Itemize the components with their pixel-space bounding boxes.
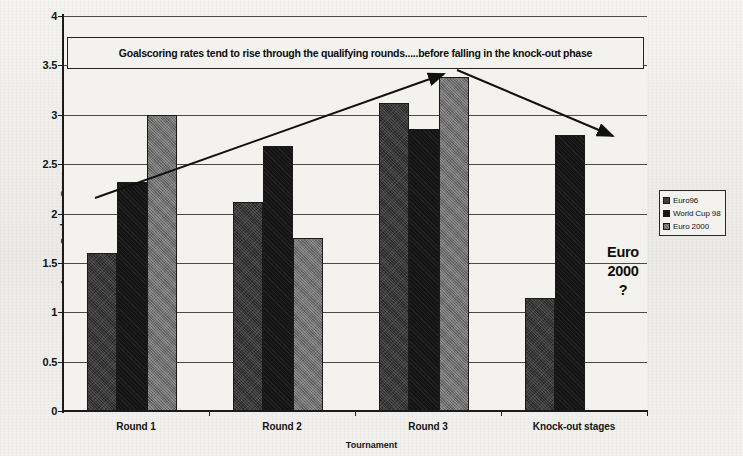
legend-swatch-icon [663, 197, 670, 204]
y-axis-tick-label: 2 [17, 208, 57, 220]
y-axis-tick [58, 65, 63, 66]
legend-swatch-icon [663, 210, 670, 217]
gridline [63, 16, 647, 17]
y-axis-tick-label: 1.5 [17, 257, 57, 269]
callout-line-2: 2000 [592, 262, 654, 281]
bar [87, 253, 117, 411]
chart-annotation-text: Goalscoring rates tend to rise through t… [119, 47, 592, 59]
x-axis-category-label: Knock-out stages [533, 421, 615, 432]
chart-annotation-banner: Goalscoring rates tend to rise through t… [67, 37, 644, 69]
x-axis-category-label: Round 3 [408, 421, 447, 432]
y-axis-tick [58, 312, 63, 313]
legend-item-label: Euro 2000 [673, 222, 709, 231]
bar [555, 135, 585, 412]
y-axis-tick [58, 16, 63, 17]
legend-item-label: Euro96 [673, 196, 698, 205]
y-axis-tick-label: 0 [17, 405, 57, 417]
callout-line-1: Euro [592, 243, 654, 262]
bar [263, 146, 293, 411]
legend-item: Euro96 [663, 194, 721, 206]
legend-item: World Cup 98 [663, 207, 721, 219]
y-axis-tick [58, 263, 63, 264]
y-axis-tick [58, 214, 63, 215]
bar [439, 77, 469, 411]
y-axis-tick-label: 2.5 [17, 158, 57, 170]
y-axis-tick-labels: 00.511.522.533.54 [17, 16, 57, 411]
x-axis-line [62, 410, 648, 412]
y-axis-tick-label: 4 [17, 10, 57, 22]
euro-2000-question-callout: Euro 2000 ? [592, 243, 654, 300]
bar [147, 115, 177, 411]
legend-item: Euro 2000 [663, 220, 721, 232]
bar [379, 103, 409, 411]
legend-swatch-icon [663, 223, 670, 230]
y-axis-tick [58, 362, 63, 363]
bar [233, 202, 263, 411]
bar [525, 298, 555, 411]
y-axis-tick [58, 164, 63, 165]
y-axis-tick-label: 0.5 [17, 356, 57, 368]
bar [117, 182, 147, 411]
bar [293, 238, 323, 411]
y-axis-tick-label: 3.5 [17, 59, 57, 71]
legend-item-label: World Cup 98 [673, 209, 721, 218]
y-axis-tick [58, 411, 63, 412]
x-axis-title: Tournament [0, 440, 743, 450]
chart-plot-area: 00.511.522.533.54 [63, 16, 647, 411]
callout-line-3: ? [592, 281, 654, 300]
y-axis-tick [58, 115, 63, 116]
chart-legend: Euro96World Cup 98Euro 2000 [659, 190, 726, 236]
x-axis-category-label: Round 1 [116, 421, 155, 432]
bar [409, 129, 439, 411]
x-axis-category-label: Round 2 [262, 421, 301, 432]
y-axis-tick-label: 1 [17, 306, 57, 318]
y-axis-tick-label: 3 [17, 109, 57, 121]
